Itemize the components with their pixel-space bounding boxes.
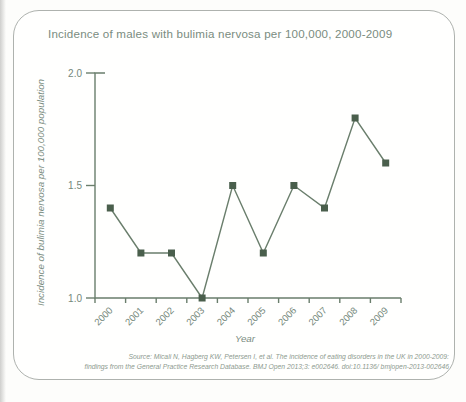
source-citation-line1: Source: Micali N, Hagberg KW, Petersen I… — [29, 352, 449, 362]
axis-lines — [95, 73, 401, 298]
x-tick-label: 2009 — [367, 305, 390, 328]
data-point-2007 — [321, 205, 328, 212]
x-tick-label: 2008 — [337, 305, 360, 328]
data-point-2000 — [107, 205, 114, 212]
data-point-2006 — [290, 182, 297, 189]
source-citation-line2: findings from the General Practice Resea… — [29, 362, 449, 372]
data-point-2008 — [352, 115, 359, 122]
x-tick-label: 2007 — [306, 305, 329, 328]
y-tick-label: 1.5 — [68, 180, 82, 191]
data-point-2001 — [137, 250, 144, 257]
x-tick-label: 2000 — [92, 305, 115, 328]
data-point-2002 — [168, 250, 175, 257]
x-tick-label: 2005 — [245, 305, 268, 328]
source-citation: Source: Micali N, Hagberg KW, Petersen I… — [29, 352, 449, 371]
data-point-2004 — [229, 182, 236, 189]
data-point-2003 — [199, 295, 206, 302]
data-point-2005 — [260, 250, 267, 257]
x-tick-label: 2001 — [123, 305, 146, 328]
series-line — [110, 118, 385, 298]
x-axis-title: Year — [195, 333, 295, 344]
data-point-2009 — [382, 160, 389, 167]
figure-page: Incidence of males with bulimia nervosa … — [0, 0, 466, 402]
x-tick-label: 2006 — [276, 305, 299, 328]
x-tick-label: 2003 — [184, 305, 207, 328]
y-tick-label: 1.0 — [68, 293, 82, 304]
x-tick-label: 2002 — [153, 305, 176, 328]
x-tick-label: 2004 — [214, 305, 237, 328]
y-tick-label: 2.0 — [68, 68, 82, 79]
